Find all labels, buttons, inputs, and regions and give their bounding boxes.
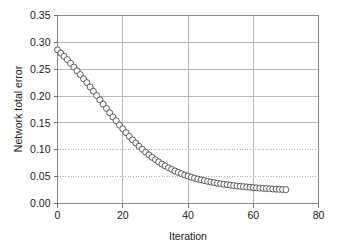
chart-background: [0, 0, 339, 251]
chart-figure: 020406080 0.000.050.100.150.200.250.300.…: [0, 0, 339, 251]
y-tick-label: 0.10: [30, 143, 51, 155]
x-tick-label: 40: [182, 209, 194, 221]
network-error-line-chart: 020406080 0.000.050.100.150.200.250.300.…: [0, 0, 339, 251]
x-axis-title: Iteration: [169, 230, 207, 242]
y-tick-label: 0.35: [30, 9, 51, 21]
y-tick-label: 0.15: [30, 117, 51, 129]
y-tick-label: 0.05: [30, 170, 51, 182]
y-axis-title: Network total error: [12, 65, 24, 152]
y-tick-label: 0.00: [30, 197, 51, 209]
y-tick-label: 0.30: [30, 36, 51, 48]
x-tick-label: 60: [247, 209, 259, 221]
data-point-marker: [283, 187, 289, 193]
y-tick-label: 0.25: [30, 63, 51, 75]
x-tick-label: 20: [117, 209, 129, 221]
x-tick-label: 0: [55, 209, 61, 221]
x-tick-label: 80: [313, 209, 325, 221]
y-tick-label: 0.20: [30, 90, 51, 102]
